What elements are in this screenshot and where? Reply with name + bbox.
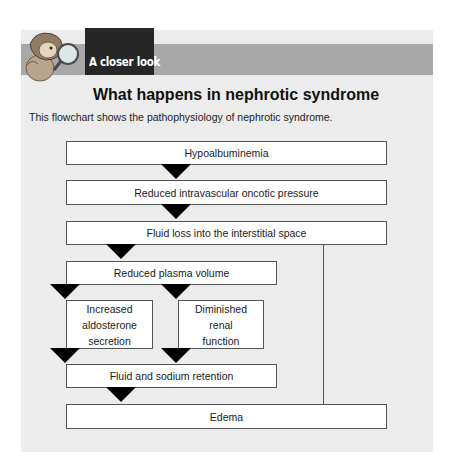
node-label-line: Increased — [86, 301, 132, 317]
flow-node-reduced-plasma-volume: Reduced plasma volume — [66, 261, 277, 285]
node-label-line: Diminished — [195, 301, 247, 317]
node-label: Reduced intravascular oncotic pressure — [134, 185, 318, 201]
node-label: Hypoalbuminemia — [184, 145, 268, 161]
arrow-down-icon — [161, 204, 191, 219]
node-label-line: aldosterone — [82, 317, 137, 333]
flow-node-fluid-loss-interstitial: Fluid loss into the interstitial space — [66, 221, 387, 245]
node-label: Edema — [210, 409, 243, 425]
flow-node-reduced-oncotic-pressure: Reduced intravascular oncotic pressure — [66, 180, 387, 205]
caption: This flowchart shows the pathophysiology… — [29, 111, 333, 123]
arrow-down-icon — [106, 387, 136, 402]
arrow-down-icon — [161, 348, 191, 363]
arrow-down-icon — [50, 348, 80, 363]
flow-node-fluid-sodium-retention: Fluid and sodium retention — [66, 364, 277, 388]
section-tag: A closer look — [85, 28, 154, 75]
page-title: What happens in nephrotic syndrome — [0, 86, 460, 104]
node-label: Fluid and sodium retention — [110, 368, 234, 384]
flow-node-edema: Edema — [66, 404, 387, 429]
node-label-line: secretion — [88, 333, 131, 349]
section-tag-label: A closer look — [89, 54, 160, 69]
flow-node-hypoalbuminemia: Hypoalbuminemia — [66, 141, 387, 165]
arrow-down-icon — [106, 244, 136, 259]
node-label-line: renal — [209, 317, 232, 333]
page-title-text: What happens in nephrotic syndrome — [93, 86, 379, 103]
arrow-down-icon — [161, 164, 191, 179]
node-label: Fluid loss into the interstitial space — [147, 225, 307, 241]
character-with-magnifying-glass-icon — [18, 24, 84, 84]
flow-node-increased-aldosterone: Increased aldosterone secretion — [66, 300, 153, 349]
flow-node-diminished-renal-function: Diminished renal function — [178, 300, 264, 349]
node-label: Reduced plasma volume — [114, 265, 230, 281]
node-label-line: function — [203, 333, 240, 349]
arrow-down-icon — [161, 284, 191, 299]
arrow-down-icon — [50, 284, 80, 299]
connector-line — [323, 244, 324, 404]
